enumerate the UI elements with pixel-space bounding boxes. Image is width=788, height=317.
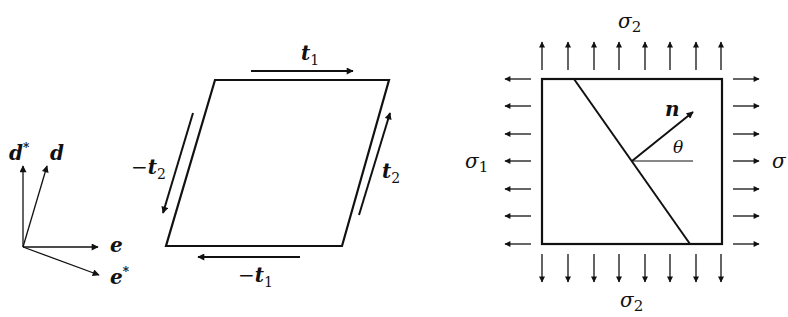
label-sigma2-bottom: σ2: [620, 288, 643, 315]
bottom-stress-arrows: [542, 254, 721, 282]
label-t1-top: t1: [301, 41, 319, 68]
label-e: e: [110, 233, 123, 257]
label-sigma-right: σ: [772, 149, 787, 173]
label-t2-right: t2: [382, 159, 400, 186]
label-normal-n: n: [665, 97, 680, 121]
diagram-canvas: d* d e e* t1 −t1 −t2 t2: [0, 0, 788, 317]
t2-left-arrow: [163, 113, 193, 213]
label-d: d: [50, 141, 64, 165]
top-stress-arrows: [542, 42, 721, 70]
label-d-star: d*: [9, 141, 30, 165]
d-vector: [23, 166, 47, 247]
stress-element: [505, 42, 759, 282]
label-sigma2-top: σ2: [618, 9, 641, 36]
label-sigma1-left: σ1: [465, 149, 488, 176]
right-stress-arrows: [733, 79, 759, 244]
label-e-star: e*: [110, 265, 130, 289]
label-theta: θ: [673, 137, 683, 157]
parallelogram-shape: [166, 80, 389, 246]
label-minus-t1-bottom: −t1: [238, 263, 273, 290]
left-stress-arrows: [505, 79, 531, 244]
parallelogram: [163, 71, 390, 257]
label-minus-t2-left: −t2: [131, 155, 166, 182]
e-star-vector: [23, 247, 99, 275]
basis-vectors: [23, 166, 99, 275]
normal-vector-arrow: [632, 112, 693, 161]
